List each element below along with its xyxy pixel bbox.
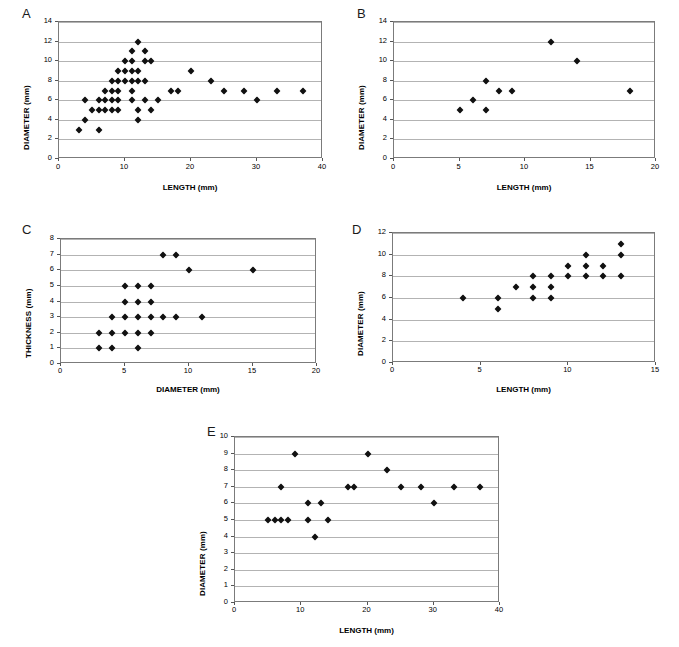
data-point [108, 77, 115, 84]
data-point [135, 77, 142, 84]
y-tick-label: 10 [367, 55, 387, 64]
gridline [394, 42, 654, 43]
data-point [174, 87, 181, 94]
panel-a: A02468101214010203040DIAMETER (mm)LENGTH… [0, 0, 679, 647]
gridline [59, 61, 321, 62]
y-tick-mark [390, 158, 393, 159]
data-point [108, 97, 115, 104]
gridline [235, 520, 498, 521]
data-point [141, 58, 148, 65]
data-point [220, 87, 227, 94]
data-point [249, 267, 256, 274]
data-point [450, 483, 457, 490]
x-tick-mark [393, 158, 394, 161]
data-point [121, 282, 128, 289]
data-point [530, 284, 537, 291]
panel-letter-d: D [352, 222, 361, 237]
y-tick-label: 14 [367, 16, 387, 25]
data-point [141, 48, 148, 55]
data-point [134, 298, 141, 305]
data-point [147, 329, 154, 336]
panel-letter-c: C [22, 222, 31, 237]
gridline [235, 570, 498, 571]
data-point [291, 450, 298, 457]
x-tick-label: 10 [512, 162, 536, 171]
data-point [121, 77, 128, 84]
gridline [59, 120, 321, 121]
gridline [61, 302, 315, 303]
data-point [482, 107, 489, 114]
x-tick-mark [655, 362, 656, 365]
data-point [115, 107, 122, 114]
data-point [278, 483, 285, 490]
y-tick-mark [57, 363, 60, 364]
x-tick-mark [590, 158, 591, 161]
y-tick-label: 8 [367, 75, 387, 84]
y-tick-label: 8 [34, 233, 54, 242]
data-point [417, 483, 424, 490]
x-axis-label: LENGTH (mm) [393, 183, 655, 192]
data-point [160, 251, 167, 258]
x-tick-mark [433, 602, 434, 605]
y-tick-mark [57, 254, 60, 255]
gridline [393, 233, 654, 234]
data-point [460, 294, 467, 301]
y-tick-mark [389, 254, 392, 255]
data-point [121, 329, 128, 336]
y-tick-mark [231, 486, 234, 487]
gridline [235, 586, 498, 587]
gridline [235, 503, 498, 504]
data-point [565, 262, 572, 269]
data-point [344, 483, 351, 490]
y-tick-mark [231, 502, 234, 503]
x-axis-label: DIAMETER (mm) [60, 385, 316, 394]
x-tick-mark [655, 158, 656, 161]
x-tick-mark [190, 158, 191, 161]
data-point [135, 38, 142, 45]
y-tick-mark [55, 60, 58, 61]
x-tick-mark [188, 363, 189, 366]
panel-letter-b: B [357, 6, 366, 21]
y-tick-mark [55, 158, 58, 159]
y-tick-label: 8 [366, 270, 386, 279]
data-point [121, 58, 128, 65]
y-tick-mark [231, 453, 234, 454]
y-tick-label: 7 [208, 481, 228, 490]
gridline [393, 341, 654, 342]
data-point [95, 107, 102, 114]
y-tick-mark [389, 297, 392, 298]
x-tick-label: 15 [578, 162, 602, 171]
data-point [135, 116, 142, 123]
gridline [235, 437, 498, 438]
data-point [278, 516, 285, 523]
plot-area-b [393, 21, 655, 158]
y-axis-label: DIAMETER (mm) [357, 85, 366, 150]
x-tick-label: 5 [468, 365, 492, 374]
gridline [393, 276, 654, 277]
data-point [148, 58, 155, 65]
data-point [600, 262, 607, 269]
y-tick-mark [231, 469, 234, 470]
y-tick-label: 4 [34, 296, 54, 305]
y-tick-mark [55, 138, 58, 139]
x-tick-label: 20 [304, 366, 328, 375]
data-point [495, 305, 502, 312]
y-axis-label: DIAMETER (mm) [22, 85, 31, 150]
gridline [393, 298, 654, 299]
y-tick-label: 2 [34, 327, 54, 336]
data-point [108, 107, 115, 114]
data-point [207, 77, 214, 84]
x-tick-mark [499, 602, 500, 605]
y-tick-label: 4 [366, 314, 386, 323]
gridline [59, 100, 321, 101]
y-tick-label: 12 [32, 36, 52, 45]
data-point [134, 314, 141, 321]
gridline [61, 239, 315, 240]
y-tick-label: 12 [366, 227, 386, 236]
gridline [235, 553, 498, 554]
y-tick-label: 3 [34, 311, 54, 320]
data-point [617, 240, 624, 247]
y-tick-label: 10 [366, 249, 386, 258]
data-point [548, 38, 555, 45]
y-tick-mark [57, 332, 60, 333]
